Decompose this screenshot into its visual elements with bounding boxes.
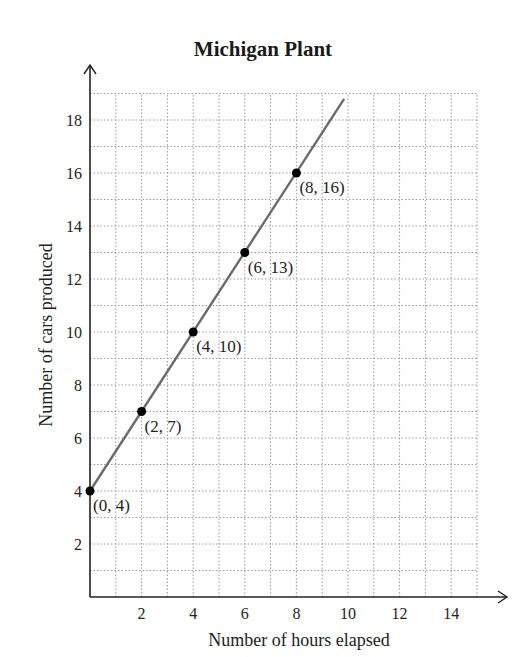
y-tick-label: 2	[74, 536, 82, 553]
x-axis-label: Number of hours elapsed	[208, 630, 389, 650]
y-tick-label: 14	[66, 218, 82, 235]
data-point-label: (6, 13)	[248, 258, 293, 277]
x-tick-label: 12	[392, 605, 408, 622]
data-point	[137, 407, 146, 416]
x-tick-label: 4	[189, 605, 197, 622]
y-tick-label: 8	[74, 377, 82, 394]
x-tick-label: 2	[138, 605, 146, 622]
y-axis-label: Number of cars produced	[36, 243, 56, 426]
data-point	[240, 248, 249, 257]
data-point-label: (2, 7)	[145, 417, 182, 436]
x-tick-label: 6	[241, 605, 249, 622]
data-point-label: (8, 16)	[299, 178, 344, 197]
y-tick-label: 16	[66, 165, 82, 182]
data-point	[86, 487, 95, 496]
grid	[90, 94, 477, 598]
axes	[84, 65, 507, 603]
trend-line	[90, 99, 344, 491]
data-point	[189, 328, 198, 337]
y-tick-label: 10	[66, 324, 82, 341]
x-tick-label: 14	[443, 605, 459, 622]
data-point	[292, 169, 301, 178]
x-tick-label: 10	[340, 605, 356, 622]
tick-labels: 246810121424681012141618	[66, 112, 459, 622]
y-tick-label: 4	[74, 483, 82, 500]
y-tick-label: 18	[66, 112, 82, 129]
data-point-label: (4, 10)	[196, 337, 241, 356]
line-chart: 246810121424681012141618 (0, 4)(2, 7)(4,…	[0, 0, 526, 657]
x-tick-label: 8	[292, 605, 300, 622]
y-tick-label: 12	[66, 271, 82, 288]
y-tick-label: 6	[74, 430, 82, 447]
data-series: (0, 4)(2, 7)(4, 10)(6, 13)(8, 16)	[86, 99, 345, 515]
data-point-label: (0, 4)	[93, 496, 130, 515]
